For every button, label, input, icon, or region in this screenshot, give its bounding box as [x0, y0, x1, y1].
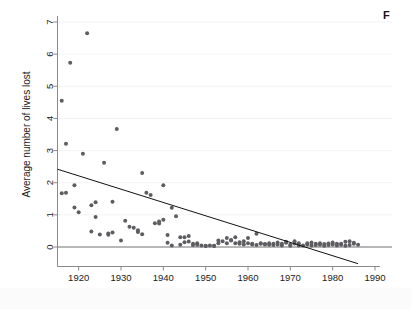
- scatter-point: [348, 243, 352, 247]
- scatter-point: [254, 243, 258, 247]
- scatter-point: [238, 240, 242, 244]
- scatter-point: [68, 61, 72, 65]
- y-tick-label-7: 7: [44, 19, 55, 24]
- y-tick-label-2: 2: [44, 180, 55, 185]
- scatter-point: [195, 243, 199, 247]
- y-tick-label-5: 5: [44, 84, 55, 89]
- scatter-point: [233, 241, 237, 245]
- scatter-point: [199, 243, 203, 247]
- scatter-point: [111, 200, 115, 204]
- tick-marks-group: [54, 22, 376, 271]
- scatter-point: [178, 243, 182, 247]
- y-axis-title: Average number of lives lost: [21, 71, 32, 197]
- scatter-point: [136, 230, 140, 234]
- scatter-point: [153, 221, 157, 225]
- scatter-point: [250, 242, 254, 246]
- scatter-point: [94, 200, 98, 204]
- y-tick-label-1: 1: [44, 212, 55, 217]
- x-tick-label-1930: 1930: [110, 272, 131, 283]
- scatter-point: [335, 243, 339, 247]
- scatter-point: [293, 239, 297, 243]
- x-tick-label-1940: 1940: [153, 272, 174, 283]
- scatter-point: [157, 222, 161, 226]
- regression-line-group: [58, 169, 359, 263]
- scatter-point: [178, 235, 182, 239]
- scatter-point: [314, 243, 318, 247]
- scatter-point: [343, 244, 347, 248]
- scatter-point: [183, 235, 187, 239]
- scatter-point: [60, 99, 64, 103]
- scatter-point: [221, 239, 225, 243]
- scatter-point: [98, 232, 102, 236]
- scatter-point: [183, 240, 187, 244]
- scatter-point: [132, 226, 136, 230]
- scatter-point: [81, 152, 85, 156]
- scatter-point: [170, 206, 174, 210]
- scatter-point: [326, 241, 330, 245]
- scatter-point: [161, 183, 165, 187]
- scatter-point: [225, 241, 229, 245]
- scatter-point: [123, 219, 127, 223]
- scatter-point: [187, 234, 191, 238]
- scatter-point: [331, 241, 335, 245]
- figure-caption-fragment: F: [383, 9, 390, 21]
- scatter-point: [140, 232, 144, 236]
- scatter-points-group: [60, 31, 360, 248]
- scatter-chart: 19201930194019501960197019801990 0123456…: [0, 0, 411, 309]
- scatter-point: [229, 239, 233, 243]
- scatter-point: [233, 235, 237, 239]
- scatter-point: [246, 236, 250, 240]
- scatter-point: [77, 210, 81, 214]
- y-tick-labels-group: 01234567: [44, 19, 55, 249]
- scatter-point: [149, 193, 153, 197]
- y-tick-label-4: 4: [44, 116, 55, 121]
- x-tick-labels-group: 19201930194019501960197019801990: [68, 272, 385, 283]
- scatter-point: [242, 242, 246, 246]
- scatter-point: [102, 161, 106, 165]
- x-tick-label-1980: 1980: [322, 272, 343, 283]
- scatter-point: [140, 171, 144, 175]
- scatter-point: [280, 242, 284, 246]
- scatter-point: [115, 127, 119, 131]
- scatter-point: [174, 214, 178, 218]
- scatter-point: [170, 243, 174, 247]
- scatter-point: [310, 243, 314, 247]
- gridlines-group: [58, 22, 393, 247]
- scatter-point: [85, 31, 89, 35]
- scatter-point: [89, 203, 93, 207]
- scatter-point: [89, 230, 93, 234]
- scatter-point: [204, 244, 208, 248]
- scatter-point: [72, 205, 76, 209]
- scatter-point: [216, 239, 220, 243]
- scatter-point: [166, 241, 170, 245]
- scatter-point: [225, 236, 229, 240]
- scatter-point: [276, 242, 280, 246]
- scatter-point: [352, 241, 356, 245]
- axes-group: [58, 16, 381, 267]
- scatter-point: [119, 239, 123, 243]
- x-tick-label-1990: 1990: [364, 272, 385, 283]
- scatter-point: [64, 191, 68, 195]
- scatter-point: [322, 242, 326, 246]
- scatter-point: [271, 242, 275, 246]
- scatter-point: [94, 215, 98, 219]
- scatter-point: [106, 233, 110, 237]
- scatter-point: [60, 191, 64, 195]
- scatter-point: [339, 242, 343, 246]
- scatter-point: [305, 241, 309, 245]
- scatter-point: [161, 218, 165, 222]
- x-tick-label-1950: 1950: [195, 272, 216, 283]
- scatter-point: [356, 243, 360, 247]
- scatter-point: [191, 243, 195, 247]
- scatter-point: [263, 242, 267, 246]
- x-tick-label-1960: 1960: [237, 272, 258, 283]
- scatter-point: [259, 241, 263, 245]
- y-tick-label-0: 0: [44, 244, 55, 249]
- scatter-point: [267, 241, 271, 245]
- scatter-point: [208, 243, 212, 247]
- y-tick-label-3: 3: [44, 148, 55, 153]
- scatter-point: [187, 240, 191, 244]
- scatter-point: [144, 191, 148, 195]
- scatter-point: [348, 239, 352, 243]
- x-tick-label-1970: 1970: [280, 272, 301, 283]
